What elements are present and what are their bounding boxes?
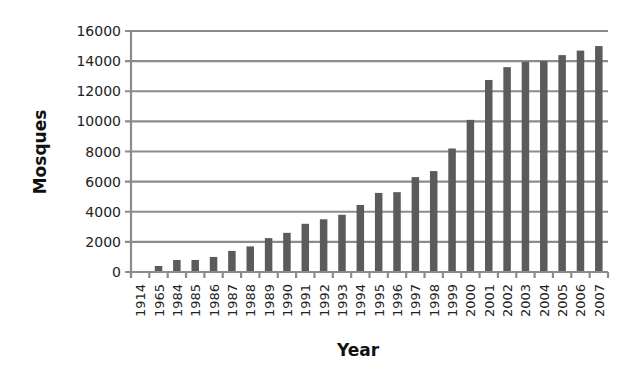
bar: [302, 224, 310, 272]
y-tick-label: 16000: [76, 23, 121, 39]
x-tick-label: 2000: [463, 284, 478, 317]
x-tick-label: 1986: [207, 284, 222, 317]
bar: [247, 246, 255, 272]
bar: [467, 120, 475, 272]
bar: [265, 238, 273, 272]
x-axis-title: Year: [336, 340, 380, 360]
x-tick-label: 1997: [408, 284, 423, 317]
y-tick-label: 4000: [85, 204, 121, 220]
x-tick-label: 1998: [427, 284, 442, 317]
bar: [320, 219, 328, 272]
bar: [558, 55, 566, 272]
x-tick-label: 1995: [372, 284, 387, 317]
x-tick-label: 2004: [537, 284, 552, 317]
bar: [503, 67, 511, 272]
y-tick-label: 14000: [76, 53, 121, 69]
x-tick-label: 1987: [225, 284, 240, 317]
x-tick-label: 1914: [133, 284, 148, 317]
x-tick-label: 2003: [518, 284, 533, 317]
x-tick-label: 2006: [573, 284, 588, 317]
x-tick-label: 1992: [317, 284, 332, 317]
bar: [540, 61, 548, 272]
x-tick-label: 1965: [152, 284, 167, 317]
y-tick-label: 8000: [85, 144, 121, 160]
bar: [357, 205, 365, 272]
x-tick-label: 1993: [335, 284, 350, 317]
x-tick-label: 1985: [188, 284, 203, 317]
x-tick-label: 1984: [170, 284, 185, 317]
y-tick-label: 2000: [85, 234, 121, 250]
x-tick-label: 2001: [482, 284, 497, 317]
bar-chart: 0200040006000800010000120001400016000 19…: [0, 0, 640, 376]
x-tick-label: 2002: [500, 284, 515, 317]
y-axis-tick-labels: 0200040006000800010000120001400016000: [76, 23, 121, 280]
x-tick-label: 2007: [592, 284, 607, 317]
bar: [228, 251, 236, 272]
y-tick-label: 10000: [76, 113, 121, 129]
x-tick-label: 1999: [445, 284, 460, 317]
bar: [283, 233, 291, 272]
bar: [430, 171, 438, 272]
gridlines: [125, 31, 608, 272]
bar: [173, 260, 181, 272]
bar: [210, 257, 218, 272]
y-axis-title: Mosques: [30, 110, 50, 195]
y-tick-label: 0: [112, 264, 121, 280]
bar: [375, 193, 383, 272]
x-tick-label: 1989: [262, 284, 277, 317]
bar: [485, 80, 493, 272]
bar: [338, 215, 346, 272]
bars: [155, 46, 603, 272]
bar: [577, 51, 585, 272]
x-tick-label: 1991: [298, 284, 313, 317]
x-tick-label: 1990: [280, 284, 295, 317]
bar: [393, 192, 401, 272]
y-tick-label: 6000: [85, 174, 121, 190]
bar: [448, 148, 456, 272]
bar: [522, 62, 530, 272]
y-tick-label: 12000: [76, 83, 121, 99]
x-tick-label: 2005: [555, 284, 570, 317]
x-tick-label: 1994: [353, 284, 368, 317]
x-tick-label: 1996: [390, 284, 405, 317]
bar: [412, 177, 420, 272]
x-tick-label: 1988: [243, 284, 258, 317]
bar: [595, 46, 603, 272]
x-axis-tick-labels: 1914196519841985198619871988198919901991…: [133, 284, 607, 317]
bar: [191, 260, 199, 272]
